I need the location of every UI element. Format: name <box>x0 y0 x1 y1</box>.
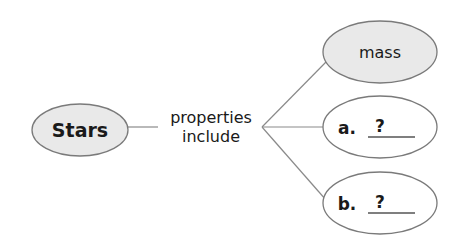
b-prefix: b. <box>338 194 357 214</box>
child-node-mass: mass <box>323 21 437 83</box>
a-prefix: a. <box>338 118 356 138</box>
child-node-a: a. ? <box>323 96 437 158</box>
a-blank-placeholder: ? <box>375 116 385 136</box>
child-node-b: b. ? <box>323 172 437 234</box>
connector-line2: include <box>182 127 240 146</box>
root-label: Stars <box>52 119 108 141</box>
concept-map: Stars properties include mass a. ? b. ? <box>0 0 460 245</box>
root-node-stars: Stars <box>32 104 128 156</box>
connector-label: properties include <box>170 108 252 146</box>
edge-connector-to-mass <box>262 62 326 127</box>
edge-connector-to-b <box>262 127 326 200</box>
connector-line1: properties <box>170 108 252 127</box>
mass-label: mass <box>359 43 401 62</box>
b-blank-placeholder: ? <box>375 192 385 212</box>
